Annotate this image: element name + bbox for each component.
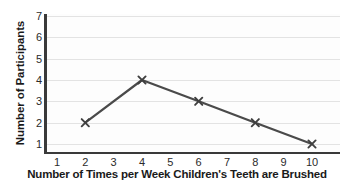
plot-area (44, 14, 340, 154)
x-axis-title: Number of Times per Week Children's Teet… (22, 168, 332, 180)
y-tick-label: 7 (28, 10, 42, 22)
y-tick-label: 1 (28, 138, 42, 150)
y-tick-label: 2 (28, 117, 42, 129)
y-tick-label: 4 (28, 74, 42, 86)
series-line (85, 80, 312, 144)
data-series-layer (44, 14, 340, 154)
y-axis-tick-labels: 1234567 (28, 8, 42, 153)
x-axis-line (44, 152, 340, 155)
chart-screenshot: Number of Participants 1234567 123456789… (0, 0, 340, 183)
series-markers (82, 76, 316, 147)
y-tick-label: 6 (28, 31, 42, 43)
y-axis-line (44, 14, 47, 153)
y-tick-label: 5 (28, 53, 42, 65)
data-point-marker (82, 119, 89, 126)
y-tick-label: 3 (28, 95, 42, 107)
